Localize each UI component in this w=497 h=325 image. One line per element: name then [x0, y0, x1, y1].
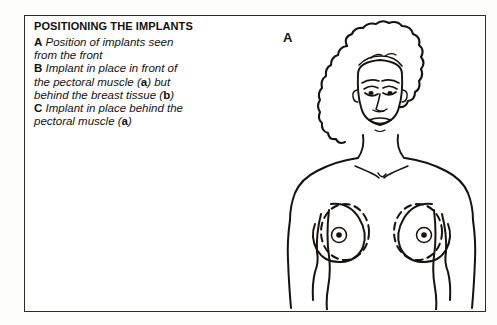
caption-line-6: C Implant in place behind the	[34, 102, 239, 115]
caption-text-4-post: ) but	[147, 76, 170, 88]
figure-page: POSITIONING THE IMPLANTS A Position of i…	[0, 0, 497, 325]
caption-text-1: Position of implants seen	[42, 36, 173, 48]
caption-block: POSITIONING THE IMPLANTS A Position of i…	[34, 20, 239, 128]
caption-line-5: behind the breast tissue (b)	[34, 89, 239, 102]
caption-line-3: B Implant in place in front of	[34, 62, 239, 75]
caption-text-7-pre: pectoral muscle (	[34, 115, 122, 127]
caption-line-4: the pectoral muscle (a) but	[34, 76, 239, 89]
caption-text-3: Implant in place in front of	[42, 62, 177, 74]
caption-text-5-post: )	[170, 89, 174, 101]
figure-title: POSITIONING THE IMPLANTS	[34, 20, 239, 33]
caption-text-5-pre: behind the breast tissue (	[34, 89, 163, 101]
caption-text-7-post: )	[128, 115, 132, 127]
caption-line-7: pectoral muscle (a)	[34, 115, 239, 128]
caption-line-1: A Position of implants seen	[34, 36, 239, 49]
caption-text-6: Implant in place behind the	[42, 102, 183, 114]
caption-line-2: from the front	[34, 49, 239, 62]
caption-text-2: from the front	[34, 49, 102, 61]
caption-text-4-pre: the pectoral muscle (	[34, 76, 141, 88]
anatomy-illustration	[235, 18, 480, 310]
